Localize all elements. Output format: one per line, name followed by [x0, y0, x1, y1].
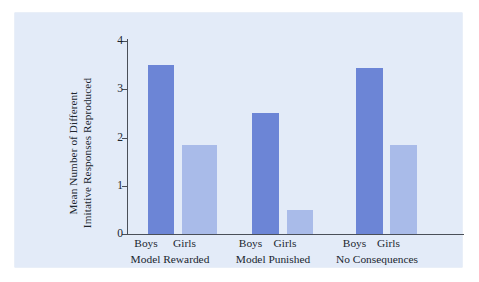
- y-tick-label: 4: [117, 35, 123, 47]
- y-tick-label: 1: [117, 180, 123, 192]
- y-axis-title-line-1: Mean Number of Different: [67, 91, 81, 214]
- x-group-label-model-punished: Model Punished: [213, 254, 333, 265]
- bar-no-consequences-boys: [356, 68, 383, 234]
- y-axis-title: Mean Number of Different Imitative Respo…: [63, 26, 99, 280]
- bar-no-consequences-girls: [390, 145, 417, 234]
- x-group-label-no-consequences: No Consequences: [317, 254, 437, 265]
- y-tick-label: 2: [117, 132, 123, 144]
- x-sub-label-no-consequences-girls: Girls: [359, 238, 419, 249]
- x-sub-label-model-rewarded-girls: Girls: [155, 238, 215, 249]
- figure-panel: Mean Number of Different Imitative Respo…: [15, 13, 462, 267]
- bar-model-punished-girls: [287, 210, 313, 234]
- bar-model-rewarded-girls: [182, 145, 217, 234]
- bar-model-punished-boys: [252, 113, 279, 234]
- x-sub-label-model-punished-girls: Girls: [255, 238, 315, 249]
- bar-model-rewarded-boys: [148, 65, 174, 234]
- y-tick-label: 3: [117, 84, 123, 96]
- plot-area: 01234: [128, 41, 463, 234]
- y-axis-title-line-2: Imitative Responses Reproduced: [81, 78, 95, 228]
- x-group-label-model-rewarded: Model Rewarded: [110, 254, 230, 265]
